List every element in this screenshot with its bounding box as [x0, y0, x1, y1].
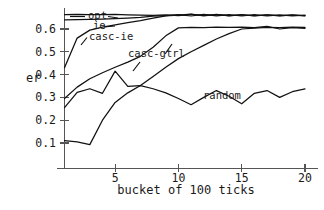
- series-label-random: random: [203, 89, 241, 101]
- chart-figure: 0.10.20.30.40.50.6 5101520 er bucket of …: [0, 0, 324, 210]
- line-chart: 0.10.20.30.40.50.6 5101520 er bucket of …: [0, 0, 324, 210]
- x-tick-label: 20: [298, 171, 312, 185]
- y-tick-label: 0.3: [35, 90, 56, 104]
- y-tick-label: 0.1: [35, 136, 56, 150]
- y-tick-label: 0.6: [35, 22, 56, 36]
- y-axis-label: er: [26, 71, 40, 85]
- x-axis-label: bucket of 100 ticks: [117, 183, 254, 197]
- series-label-casc-gtrl: casc-gtrl: [128, 47, 185, 59]
- series-label-casc-ie: casc-ie: [89, 30, 133, 42]
- y-tick-label: 0.5: [35, 45, 56, 59]
- y-tick-label: 0.2: [35, 113, 56, 127]
